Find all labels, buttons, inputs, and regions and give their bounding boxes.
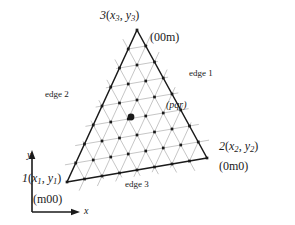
lattice-dot xyxy=(118,102,121,105)
lattice-dot xyxy=(136,64,139,67)
lattice-dot xyxy=(171,163,174,166)
vertex-1-paren-close: ) xyxy=(57,171,61,185)
lattice-dot xyxy=(153,166,156,169)
lattice-dot xyxy=(162,112,165,115)
vertex-2-paren-close: ) xyxy=(254,139,258,153)
lattice-dot xyxy=(153,131,156,134)
lattice-dot xyxy=(136,134,139,137)
vertex-1-label: 1(x1, y1) xyxy=(22,172,61,186)
lattice-dot xyxy=(136,99,139,102)
lattice-dot xyxy=(118,172,121,175)
lattice-dot xyxy=(101,105,104,108)
lattice-dot xyxy=(153,96,156,99)
lattice-dot xyxy=(109,86,112,89)
lattice-dot xyxy=(101,140,104,143)
lattice-dot xyxy=(162,147,165,150)
vertex-3-code-label: (00m) xyxy=(150,31,179,43)
vertex-3-code-text: (00m) xyxy=(150,30,179,44)
lattice-dot xyxy=(136,169,139,172)
lattice-dot xyxy=(101,175,104,178)
lattice-dot xyxy=(136,29,139,32)
lattice-dot xyxy=(153,61,156,64)
lattice-dot xyxy=(188,160,191,163)
vertex-1-code-label: (m00) xyxy=(33,193,62,205)
edge-2-label: edge 2 xyxy=(45,90,69,99)
lattice-dot xyxy=(188,125,191,128)
y-axis-label: y xyxy=(27,150,31,160)
vertex-2-label: 2(x2, y2) xyxy=(219,140,258,154)
lattice-dot xyxy=(118,67,121,70)
lattice-dot xyxy=(171,93,174,96)
vertex-2-code-text: (0m0) xyxy=(219,159,248,173)
marked-point-pqr xyxy=(128,114,135,121)
lattice-dot xyxy=(144,45,147,48)
lattice-dot xyxy=(144,150,147,153)
lattice-dot xyxy=(197,141,200,144)
lattice-dot xyxy=(83,178,86,181)
lattice-dot xyxy=(83,143,86,146)
lattice-dot xyxy=(92,159,95,162)
lattice-dot xyxy=(127,153,130,156)
lattice-dot xyxy=(179,144,182,147)
lattice-dot xyxy=(144,115,147,118)
lattice-dot xyxy=(127,83,130,86)
vertex-2-code-label: (0m0) xyxy=(219,160,248,172)
edge-1-label: edge 1 xyxy=(189,69,213,78)
lattice-dot xyxy=(109,156,112,159)
lattice-dot xyxy=(127,48,130,51)
vertex-3-paren-close: ) xyxy=(135,8,139,22)
lattice-dot xyxy=(109,121,112,124)
lattice-dot xyxy=(162,77,165,80)
vertex-1-code-text: (m00) xyxy=(33,192,62,206)
pqr-point-label: (pqr) xyxy=(166,100,187,110)
lattice-dot xyxy=(206,157,209,160)
lattice-dot xyxy=(66,181,69,184)
lattice-dot xyxy=(92,124,95,127)
vertex-3-label: 3(x3, y3) xyxy=(100,9,139,23)
lattice-dot xyxy=(118,137,121,140)
lattice-dot xyxy=(171,128,174,131)
marked-point-group xyxy=(128,114,135,121)
lattice-dot xyxy=(74,162,77,165)
x-axis-label: x xyxy=(84,206,88,216)
edge-3-label: edge 3 xyxy=(125,180,149,189)
lattice-dot xyxy=(144,80,147,83)
